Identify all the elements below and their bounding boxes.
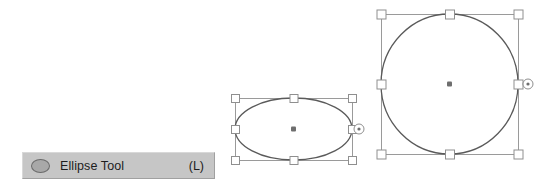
- resize-handle-middle-right[interactable]: [514, 80, 523, 89]
- resize-handle-middle-left[interactable]: [377, 80, 386, 89]
- resize-handle-bottom-center[interactable]: [446, 150, 455, 159]
- ellipse-icon: [31, 159, 50, 173]
- resize-handle-bottom-right[interactable]: [514, 150, 523, 159]
- resize-handle-top-left[interactable]: [377, 10, 386, 19]
- resize-handle-top-right[interactable]: [514, 10, 523, 19]
- center-point-marker: [447, 82, 452, 87]
- rotation-handle-dot: [526, 82, 529, 85]
- ellipse-tool-tooltip[interactable]: Ellipse Tool (L): [22, 152, 215, 179]
- tool-shortcut-label: (L): [189, 159, 204, 173]
- drawing-canvas[interactable]: Ellipse Tool (L): [0, 0, 552, 184]
- resize-handle-bottom-left[interactable]: [377, 150, 386, 159]
- resize-handle-top-center[interactable]: [446, 10, 455, 19]
- tool-name-label: Ellipse Tool: [60, 159, 124, 173]
